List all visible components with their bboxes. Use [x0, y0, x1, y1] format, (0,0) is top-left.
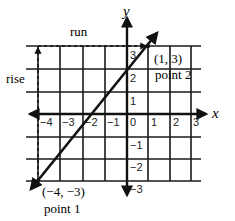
svg-text:−3: −3: [62, 116, 75, 128]
svg-text:−2: −2: [130, 161, 143, 173]
run-label: run: [70, 24, 88, 39]
point-2-coord: (1, 3): [154, 51, 182, 66]
svg-text:0: 0: [130, 116, 136, 128]
svg-text:1: 1: [130, 95, 136, 107]
point-2-name: point 2: [155, 67, 191, 82]
svg-text:−3: −3: [130, 183, 143, 195]
point-1-name: point 1: [44, 201, 80, 216]
x-axis-label: x: [211, 105, 219, 121]
svg-text:3: 3: [193, 116, 199, 128]
rise-label: rise: [6, 71, 25, 86]
coordinate-plane-diagram: −4 −3 −2 −1 0 1 2 3 3 2 1 −1 −2 −3 x y r…: [0, 0, 235, 221]
point-1-marker: [36, 179, 40, 183]
svg-text:−2: −2: [85, 116, 98, 128]
svg-text:−1: −1: [107, 116, 120, 128]
svg-text:1: 1: [151, 116, 157, 128]
point-2-marker: [146, 44, 150, 48]
svg-text:3: 3: [130, 49, 136, 61]
svg-text:2: 2: [173, 116, 179, 128]
svg-text:−4: −4: [40, 116, 53, 128]
point-1-coord: (−4, −3): [42, 184, 85, 199]
x-tick-labels: −4 −3 −2 −1 0 1 2 3: [40, 116, 199, 128]
y-axis-label: y: [121, 3, 130, 19]
svg-text:2: 2: [130, 72, 136, 84]
svg-text:−1: −1: [130, 139, 143, 151]
